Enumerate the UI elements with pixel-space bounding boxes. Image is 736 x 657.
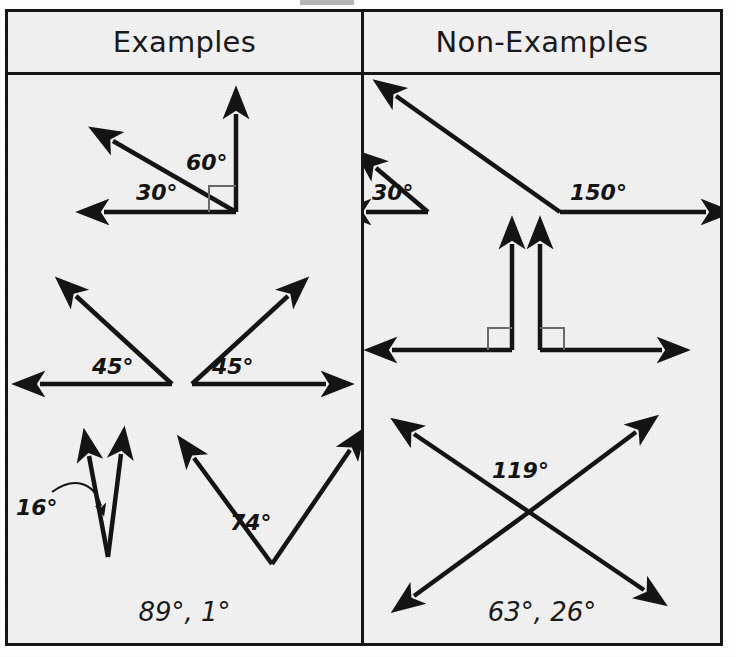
- example-diagram-16: 16°: [16, 454, 121, 557]
- label-60-degrees: 60°: [186, 150, 228, 175]
- example-diagram-74: 74°: [194, 450, 350, 564]
- non-examples-diagrams: 30° 150°: [364, 72, 720, 643]
- ray-150-diagonal: [396, 96, 560, 212]
- ray-16-right: [108, 454, 121, 557]
- label-16-degrees: 16°: [16, 495, 58, 520]
- label-150-degrees: 150°: [570, 180, 627, 205]
- ray-down-left: [414, 512, 529, 596]
- right-angle-marker-left: [488, 328, 512, 350]
- label-74-degrees: 74°: [230, 510, 272, 535]
- non-example-diagram-two-right-angles: [392, 244, 662, 350]
- non-example-diagram-crossing-lines-119: 119°: [414, 432, 644, 596]
- column-header-examples-label: Examples: [113, 25, 256, 59]
- examples-footer-label: 89°, 1°: [8, 597, 361, 627]
- non-example-diagram-30-150: 30° 150°: [366, 96, 706, 212]
- stray-scan-mark: [300, 0, 354, 5]
- ray-down-right: [529, 512, 644, 590]
- non-examples-cell: 30° 150°: [361, 72, 720, 643]
- label-30-degrees: 30°: [136, 180, 178, 205]
- example-diagram-45-45: 45° 45°: [40, 296, 326, 384]
- right-angle-marker-right: [540, 328, 564, 350]
- table-body-row: 30° 60° 45° 45°: [8, 72, 720, 643]
- examples-non-examples-table: Examples Non-Examples: [5, 9, 723, 646]
- column-header-non-examples: Non-Examples: [361, 12, 720, 72]
- table-header-row: Examples Non-Examples: [8, 12, 720, 75]
- worksheet-page: Examples Non-Examples: [0, 0, 736, 657]
- non-examples-footer-label: 63°, 26°: [364, 597, 720, 627]
- label-45-degrees-left: 45°: [91, 354, 134, 379]
- column-header-examples: Examples: [8, 12, 361, 72]
- example-diagram-30-60: 30° 60°: [104, 114, 236, 212]
- label-45-degrees-right: 45°: [211, 354, 254, 379]
- ray-16-left: [89, 456, 108, 557]
- label-119-degrees: 119°: [492, 458, 549, 483]
- label-30-degrees-non-example: 30°: [372, 180, 414, 205]
- ray-74-right: [272, 450, 350, 564]
- examples-cell: 30° 60° 45° 45°: [8, 72, 361, 643]
- column-header-non-examples-label: Non-Examples: [436, 25, 649, 59]
- examples-diagrams: 30° 60° 45° 45°: [8, 72, 361, 643]
